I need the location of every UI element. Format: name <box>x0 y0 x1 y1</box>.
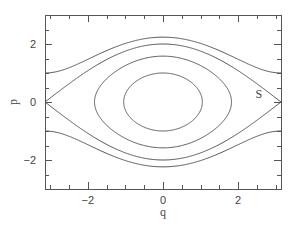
libration-orbit <box>124 73 203 131</box>
x-axis-label: q <box>160 205 166 219</box>
orbit-curves <box>45 37 281 167</box>
tick-labels: −202−202 <box>23 38 241 206</box>
plot-frame <box>46 16 282 190</box>
rotation-orbit <box>45 37 281 73</box>
y-tick-label: −2 <box>23 154 36 166</box>
y-axis-label: p <box>6 99 20 105</box>
rotation-orbit <box>45 131 281 167</box>
x-tick-label: 2 <box>235 194 241 206</box>
phase-portrait-chart: −202−202 q p S <box>0 0 291 229</box>
axis-ticks <box>45 15 281 190</box>
x-tick-label: −2 <box>82 194 95 206</box>
y-tick-label: 2 <box>30 38 36 50</box>
separatrix-annotation: S <box>255 87 262 101</box>
libration-orbit <box>95 56 232 148</box>
y-tick-label: 0 <box>30 96 36 108</box>
